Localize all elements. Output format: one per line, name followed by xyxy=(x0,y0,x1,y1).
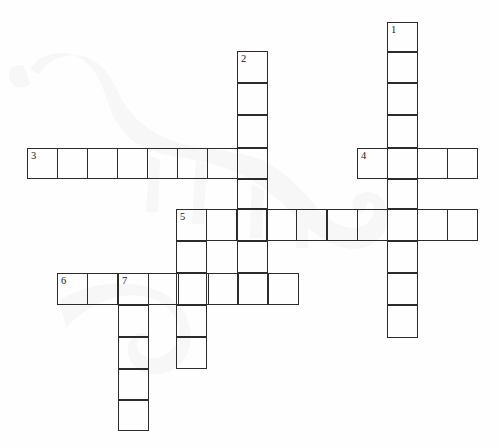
cell-c5-r5[interactable] xyxy=(176,337,207,369)
clue-number-3: 3 xyxy=(31,149,36,162)
cell-c1-r4[interactable] xyxy=(387,115,418,148)
clue-number-5: 5 xyxy=(180,210,185,223)
cell-a5-1[interactable]: 5 xyxy=(176,209,207,241)
cell-c1-r8[interactable] xyxy=(387,241,418,273)
cell-a3-3[interactable] xyxy=(87,148,118,179)
cell-a5-10[interactable] xyxy=(447,209,478,241)
cell-c1-r10[interactable] xyxy=(387,305,418,338)
cell-a5-6[interactable] xyxy=(327,209,358,241)
cell-a6-6[interactable] xyxy=(208,273,239,305)
cell-a5-7[interactable] xyxy=(357,209,388,241)
cell-a6-4[interactable] xyxy=(148,273,179,305)
cell-c5-r2[interactable] xyxy=(176,241,207,273)
cell-a3-4[interactable] xyxy=(117,148,148,179)
cell-a5-8[interactable] xyxy=(387,209,418,241)
cell-a4-2[interactable] xyxy=(387,148,418,179)
cell-c1-r3[interactable] xyxy=(387,83,418,115)
cell-a5-5[interactable] xyxy=(296,209,327,241)
cell-a6-7[interactable] xyxy=(238,273,269,305)
cell-c1-r1[interactable]: 1 xyxy=(387,22,418,52)
cell-c7-r5[interactable] xyxy=(118,400,149,431)
cell-a6-2[interactable] xyxy=(87,273,118,305)
cell-a3-5[interactable] xyxy=(147,148,178,179)
cell-c2-r5[interactable] xyxy=(237,179,268,209)
cell-a3-7[interactable] xyxy=(207,148,238,179)
cell-a3-2[interactable] xyxy=(57,148,88,179)
cell-c1-r6[interactable] xyxy=(387,179,418,209)
cell-c1-r9[interactable] xyxy=(387,273,418,305)
cell-c2-r3[interactable] xyxy=(237,115,268,148)
cell-a5-4[interactable] xyxy=(266,209,297,241)
crossword-grid: 1234567 xyxy=(0,0,499,448)
clue-number-4: 4 xyxy=(361,149,366,162)
clue-number-2: 2 xyxy=(241,52,246,65)
cell-a5-2[interactable] xyxy=(206,209,237,241)
cell-a5-9[interactable] xyxy=(417,209,448,241)
cell-a6-8[interactable] xyxy=(268,273,299,305)
clue-number-1: 1 xyxy=(391,23,396,36)
cell-a6-5[interactable] xyxy=(178,273,209,305)
cell-c1-r2[interactable] xyxy=(387,52,418,83)
cell-c7-r4[interactable] xyxy=(118,369,149,400)
cell-a3-8[interactable] xyxy=(237,148,268,179)
cell-a5-3[interactable] xyxy=(236,209,267,241)
cell-c2-r2[interactable] xyxy=(237,83,268,115)
cell-c2-r1[interactable]: 2 xyxy=(237,51,268,83)
cell-c5-r4[interactable] xyxy=(176,305,207,337)
crossword-puzzle: 1234567 xyxy=(0,0,499,448)
cell-c2-r7[interactable] xyxy=(237,241,268,273)
cell-a3-1[interactable]: 3 xyxy=(27,148,58,179)
clue-number-7: 7 xyxy=(122,274,127,287)
cell-c7-r3[interactable] xyxy=(118,337,149,369)
cell-a3-6[interactable] xyxy=(177,148,208,179)
clue-number-6: 6 xyxy=(61,274,66,287)
cell-a4-3[interactable] xyxy=(417,148,448,179)
cell-c7-r2[interactable] xyxy=(118,305,149,337)
cell-a4-4[interactable] xyxy=(447,148,478,179)
cell-a6-1[interactable]: 6 xyxy=(57,273,88,305)
cell-a4-1[interactable]: 4 xyxy=(357,148,388,179)
cell-a6-3[interactable]: 7 xyxy=(118,273,149,305)
